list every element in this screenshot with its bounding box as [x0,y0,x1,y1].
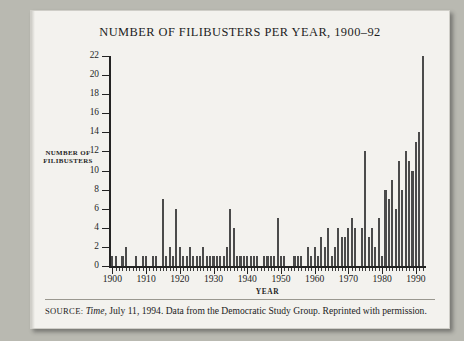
y-axis-tick [102,132,109,133]
bar [189,247,191,266]
y-axis-tick-label: 10 [75,165,99,175]
y-axis-tick [102,56,109,57]
x-axis-tick-label: 1990 [396,273,436,284]
x-axis-minor-tick [156,268,157,271]
x-axis-minor-tick [402,268,403,271]
y-axis-tick-label: 0 [75,260,99,270]
bar [125,247,127,266]
bar [270,256,272,266]
x-axis-minor-tick [386,268,387,271]
bar [229,209,231,266]
x-axis-minor-tick [268,268,269,271]
bars-container [109,56,426,266]
bar [246,256,248,266]
x-axis-minor-tick [153,268,154,271]
x-axis-minor-tick [241,268,242,271]
bar [202,247,204,266]
x-axis-minor-tick [392,268,393,271]
y-axis-tick-label: 12 [75,145,99,155]
y-axis-tick [102,75,109,76]
x-axis-minor-tick [362,268,363,271]
bar [408,161,410,266]
bar [155,256,157,266]
bar [142,256,144,266]
x-axis-minor-tick [257,268,258,271]
x-axis-minor-tick [143,268,144,271]
x-axis-minor-tick [291,268,292,271]
x-axis-minor-tick [163,268,164,271]
bar [280,256,282,266]
bar [405,151,407,266]
x-axis-minor-tick [126,268,127,271]
x-axis-minor-tick [261,268,262,271]
x-axis-minor-tick [372,268,373,271]
bar [121,256,123,266]
x-axis-minor-tick [264,268,265,271]
x-axis-minor-tick [274,268,275,271]
y-axis-tick [102,94,109,95]
bar [239,256,241,266]
bar [384,190,386,266]
x-axis-minor-tick [244,268,245,271]
bar [277,218,279,266]
x-axis-minor-tick [220,268,221,271]
bar [243,256,245,266]
bar [199,256,201,266]
bar [206,256,208,266]
bar [135,256,137,266]
bar [111,256,113,266]
source-caption: SOURCE: Time, July 11, 1994. Data from t… [45,305,437,318]
x-axis-minor-tick [160,268,161,271]
x-axis-minor-tick [224,268,225,271]
bar [165,256,167,266]
bar [273,256,275,266]
bar [317,256,319,266]
x-axis-minor-tick [365,268,366,271]
x-axis-minor-tick [207,268,208,271]
bar [368,237,370,266]
x-axis-minor-tick [311,268,312,271]
x-axis-minor-tick [254,268,255,271]
x-axis-minor-tick [271,268,272,271]
bar [223,256,225,266]
x-axis-minor-tick [203,268,204,271]
bar [300,256,302,266]
x-axis-minor-tick [359,268,360,271]
x-axis-minor-tick [166,268,167,271]
bar [327,228,329,266]
x-axis-minor-tick [321,268,322,271]
bar [401,190,403,266]
x-axis-minor-tick [352,268,353,271]
bar [314,247,316,266]
bar [341,237,343,266]
y-axis-tick-label: 22 [75,50,99,60]
x-axis-minor-tick [200,268,201,271]
y-axis-tick-label: 20 [75,69,99,79]
x-axis-minor-tick [133,268,134,271]
x-axis-minor-tick [335,268,336,271]
bar [145,256,147,266]
bar [374,247,376,266]
bar [398,161,400,266]
bar [175,209,177,266]
bar [344,237,346,266]
figure-panel: NUMBER OF FILIBUSTERS PER YEAR, 1900–92 … [30,10,450,329]
bar [162,199,164,266]
bar [334,247,336,266]
x-axis-minor-tick [294,268,295,271]
bar [347,228,349,266]
x-axis-minor-tick [119,268,120,271]
x-axis-minor-tick [375,268,376,271]
bar [219,256,221,266]
bar [233,228,235,266]
bar [388,199,390,266]
bar [418,132,420,266]
bar [297,256,299,266]
bar [337,228,339,266]
x-axis-minor-tick [325,268,326,271]
x-axis-minor-tick [419,268,420,271]
y-axis-tick-label: 8 [75,184,99,194]
x-axis-minor-tick [396,268,397,271]
x-axis-minor-tick [406,268,407,271]
bar [378,218,380,266]
